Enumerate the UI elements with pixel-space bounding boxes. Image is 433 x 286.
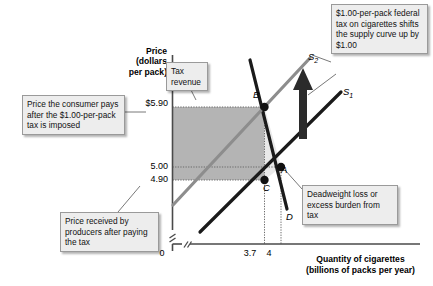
upward-shift-arrow xyxy=(293,68,313,139)
curve-label-s2-subscript: 2 xyxy=(314,57,318,64)
x-tick-3-7: 3.7 xyxy=(241,248,259,258)
point-label-c: C xyxy=(263,182,270,193)
callout-deadweight-loss: Deadweight loss or excess burden from ta… xyxy=(302,185,398,225)
point-label-a: A xyxy=(281,164,287,175)
y-axis-title: Price (dollars per pack) xyxy=(103,46,167,77)
y-tick-590: $5.90 xyxy=(128,98,168,108)
x-tick-4: 4 xyxy=(262,248,276,258)
curve-label-s1-subscript: 1 xyxy=(349,92,353,99)
point-B xyxy=(260,103,268,111)
curve-label-s1: S1 xyxy=(343,86,353,99)
y-tick-490: 4.90 xyxy=(128,174,168,184)
tax-revenue-region xyxy=(173,107,265,180)
callout-tax-shift-note: $1.00-per-pack federal tax on cigarettes… xyxy=(331,4,428,54)
curve-label-d: D xyxy=(286,211,293,222)
callout-tax-revenue: Tax revenue xyxy=(166,62,208,91)
curve-label-s2: S2 xyxy=(308,51,318,64)
callout-consumer-price: Price the consumer pays after the $1.00-… xyxy=(22,95,125,135)
y-tick-500: 5.00 xyxy=(128,161,168,171)
x-axis-title: Quantity of cigarettes (billions of pack… xyxy=(288,254,433,275)
figure-root: Price (dollars per pack) Quantity of cig… xyxy=(0,0,433,286)
point-label-b: B xyxy=(253,89,259,100)
callout-producer-price: Price received by producers after paying… xyxy=(60,212,159,252)
